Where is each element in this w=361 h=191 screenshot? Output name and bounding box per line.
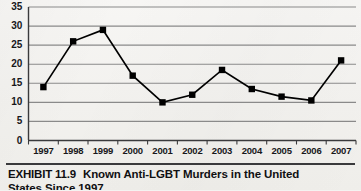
x-axis-tick-label: 2006 xyxy=(296,146,326,156)
x-axis-tick-label: 2002 xyxy=(177,146,207,156)
data-series-line xyxy=(43,30,341,102)
data-point-marker xyxy=(189,92,195,98)
x-axis-tick-label: 1999 xyxy=(88,146,118,156)
caption-title-line2: States Since 1997 xyxy=(8,182,358,191)
exhibit-number: EXHIBIT 11.9 xyxy=(8,168,76,180)
y-axis-tick-label: 25 xyxy=(2,40,22,50)
x-axis-tick-label: 2004 xyxy=(237,146,267,156)
data-point-marker xyxy=(159,99,165,105)
gridlines xyxy=(29,7,357,121)
y-axis-tick-label: 20 xyxy=(2,59,22,69)
chart-axes xyxy=(28,7,356,141)
caption-divider xyxy=(6,163,355,165)
chart-plot-svg xyxy=(0,0,361,160)
data-point-markers xyxy=(40,27,344,106)
data-point-marker xyxy=(100,27,106,33)
x-axis-tick-label: 2001 xyxy=(148,146,178,156)
y-axis-tick-label: 15 xyxy=(2,78,22,88)
x-axis-tick-label: 2007 xyxy=(326,146,356,156)
x-axis-tick-label: 1997 xyxy=(28,146,58,156)
data-point-marker xyxy=(70,38,76,44)
y-axis-tick-label: 0 xyxy=(2,136,22,146)
x-axis-tick-label: 2000 xyxy=(118,146,148,156)
data-point-marker xyxy=(338,57,344,63)
y-axis-tick-label: 35 xyxy=(2,2,22,12)
data-point-marker xyxy=(278,93,284,99)
y-axis-tick-label: 30 xyxy=(2,21,22,31)
data-point-marker xyxy=(130,72,136,78)
x-axis-tick-label: 1998 xyxy=(58,146,88,156)
x-axis-tick-label: 2005 xyxy=(267,146,297,156)
x-axis-tick-label: 2003 xyxy=(207,146,237,156)
data-point-marker xyxy=(40,84,46,90)
line-chart: 05101520253035 1997199819992000200120022… xyxy=(0,0,361,160)
data-point-marker xyxy=(219,67,225,73)
data-point-marker xyxy=(308,97,314,103)
caption-title-line1: Known Anti-LGBT Murders in the United xyxy=(83,168,299,180)
data-point-marker xyxy=(249,86,255,92)
y-axis-tick-label: 5 xyxy=(2,116,22,126)
figure-caption: EXHIBIT 11.9Known Anti-LGBT Murders in t… xyxy=(8,168,358,190)
y-axis-tick-label: 10 xyxy=(2,97,22,107)
